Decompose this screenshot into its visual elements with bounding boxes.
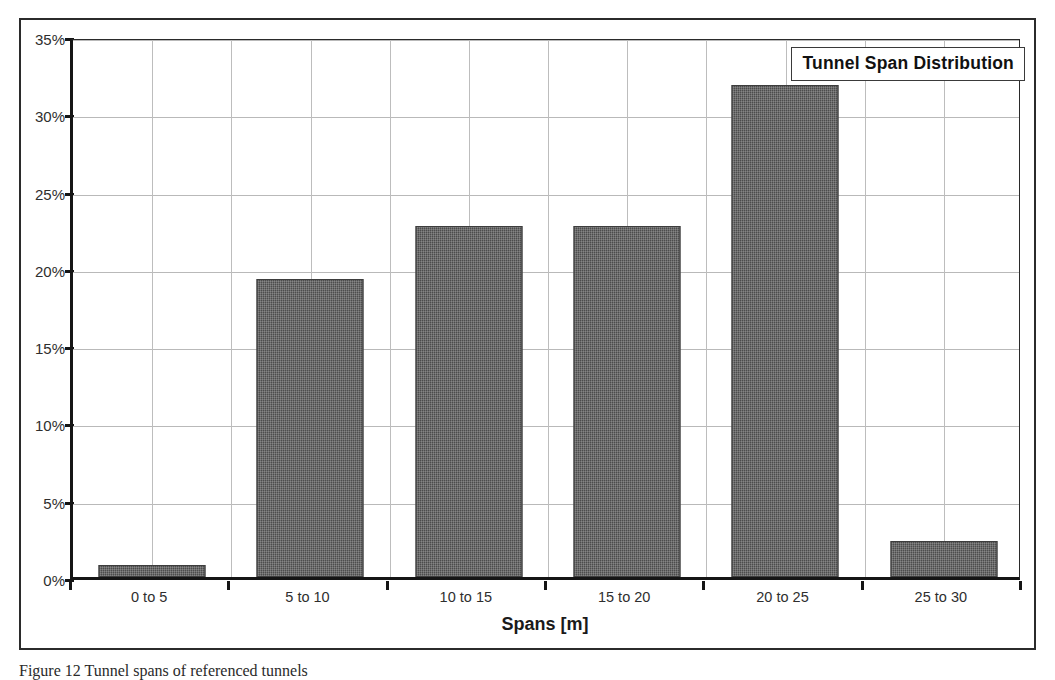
x-tick-mark (861, 581, 864, 590)
x-tick-mark (227, 581, 230, 590)
x-tick-mark (702, 581, 705, 590)
y-tick-label: 20% (35, 262, 65, 279)
y-tick-label: 35% (35, 31, 65, 48)
y-tick-label: 5% (43, 494, 65, 511)
x-tick-label: 25 to 30 (915, 589, 967, 605)
bar[interactable] (99, 565, 206, 577)
y-axis: 0%5%10%15%20%25%30%35% (21, 39, 65, 580)
bar[interactable] (574, 226, 681, 577)
bar-slot (865, 40, 1023, 577)
bar-slot (73, 40, 231, 577)
bar[interactable] (890, 541, 997, 577)
legend-title-box: Tunnel Span Distribution (791, 47, 1025, 81)
plot-area (70, 39, 1020, 580)
x-tick-label: 10 to 15 (440, 589, 492, 605)
x-tick-label: 20 to 25 (756, 589, 808, 605)
y-tick-label: 0% (43, 572, 65, 589)
figure-caption: Figure 12 Tunnel spans of referenced tun… (19, 662, 308, 680)
figure-frame: 0%5%10%15%20%25%30%35% 0 to 55 to 1010 t… (19, 18, 1036, 650)
x-tick-label: 5 to 10 (285, 589, 329, 605)
bar-slot (706, 40, 864, 577)
bar-slot (231, 40, 389, 577)
x-axis: 0 to 55 to 1010 to 1515 to 2020 to 2525 … (70, 582, 1020, 608)
x-tick-mark (386, 581, 389, 590)
y-tick-label: 30% (35, 108, 65, 125)
x-tick-mark (1019, 581, 1022, 590)
bar[interactable] (732, 85, 839, 577)
x-tick-mark (69, 581, 72, 590)
bar[interactable] (415, 226, 522, 577)
bars-layer (73, 40, 1019, 577)
y-tick-label: 10% (35, 417, 65, 434)
chart-canvas: 0%5%10%15%20%25%30%35% 0 to 55 to 1010 t… (21, 20, 1034, 648)
y-tick-label: 15% (35, 340, 65, 357)
bar-slot (390, 40, 548, 577)
y-tick-label: 25% (35, 185, 65, 202)
x-axis-title: Spans [m] (70, 614, 1020, 635)
x-tick-label: 0 to 5 (131, 589, 167, 605)
bar[interactable] (257, 279, 364, 577)
x-tick-mark (544, 581, 547, 590)
bar-slot (548, 40, 706, 577)
x-tick-label: 15 to 20 (598, 589, 650, 605)
